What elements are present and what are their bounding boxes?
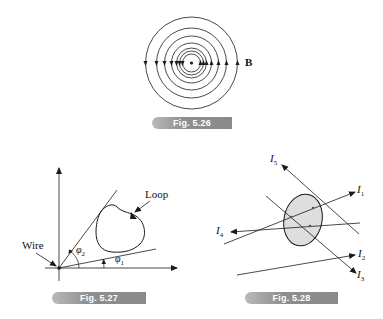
current-loop xyxy=(96,205,145,252)
current-label-i5: I5 xyxy=(270,152,277,164)
closed-loop-region xyxy=(279,191,327,250)
current-label-i2: I2 xyxy=(358,247,365,259)
phi2-label: φ2 xyxy=(76,244,85,255)
coordinate-axes xyxy=(45,168,177,281)
caption-fig-5-27: Fig. 5.27 xyxy=(52,292,146,304)
tangent-lines xyxy=(59,190,156,268)
current-label-i1: I1 xyxy=(357,183,364,195)
current-label-i3: I3 xyxy=(357,268,364,280)
phi2-subscript: 2 xyxy=(82,250,86,258)
caption-fig-5-28: Fig. 5.28 xyxy=(245,292,338,304)
caption-fig-5-26: Fig. 5.26 xyxy=(152,117,232,129)
field-label-b: B xyxy=(245,56,252,68)
phi1-subscript: 1 xyxy=(121,259,125,267)
figures-canvas xyxy=(0,0,383,319)
wire-pointer xyxy=(36,253,56,266)
wire-label: Wire xyxy=(22,239,44,251)
wire-dot xyxy=(190,61,193,64)
wire-point xyxy=(57,266,61,270)
phi1-label: φ1 xyxy=(115,253,124,264)
loop-pointer xyxy=(135,201,150,212)
phi2-symbol: φ xyxy=(76,244,82,255)
loop-label: Loop xyxy=(145,188,168,200)
phi1-symbol: φ xyxy=(115,253,121,264)
current-label-i4: I4 xyxy=(216,224,223,236)
